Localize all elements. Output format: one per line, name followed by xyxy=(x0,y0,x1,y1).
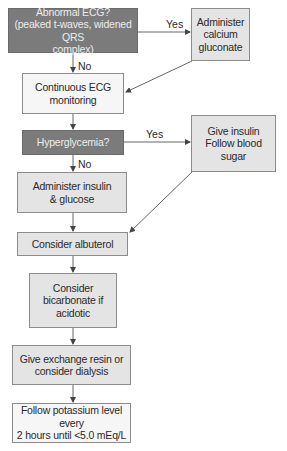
node-consider-bicarbonate: Consider bicarbonate if acidotic xyxy=(29,273,117,328)
node-albuterol-text: Consider albuterol xyxy=(32,238,114,251)
node-continuous-ecg-text: Continuous ECG monitoring xyxy=(35,81,111,106)
node-follow-potassium-text: Follow potassium level every 2 hours unt… xyxy=(16,404,127,442)
node-abnormal-ecg-text: Abnormal ECG? (peaked t-waves, widened Q… xyxy=(12,6,134,56)
node-administer-calcium-gluconate: Administer calcium gluconate xyxy=(191,8,250,61)
edge-label-ecg-yes: Yes xyxy=(166,18,183,30)
edge-label-hyperglycemia-yes: Yes xyxy=(146,128,163,140)
node-hyperglycemia-text: Hyperglycemia? xyxy=(37,136,109,149)
node-give-insulin-follow-blood-sugar: Give insulin Follow blood sugar xyxy=(191,115,276,172)
flowchart: Abnormal ECG? (peaked t-waves, widened Q… xyxy=(0,0,287,451)
node-follow-potassium: Follow potassium level every 2 hours unt… xyxy=(12,403,131,443)
node-hyperglycemia: Hyperglycemia? xyxy=(22,130,124,155)
edge-label-hyperglycemia-no: No xyxy=(78,158,91,170)
node-insulin-glucose-text: Administer insulin & glucose xyxy=(33,180,112,205)
node-continuous-ecg-monitoring: Continuous ECG monitoring xyxy=(22,73,124,114)
node-administer-insulin-glucose: Administer insulin & glucose xyxy=(17,172,127,213)
node-exchange-resin-dialysis: Give exchange resin or consider dialysis xyxy=(12,345,131,385)
node-exchange-resin-text: Give exchange resin or consider dialysis xyxy=(20,353,124,378)
node-calcium-text: Administer calcium gluconate xyxy=(197,16,245,54)
node-consider-albuterol: Consider albuterol xyxy=(17,232,128,256)
node-give-insulin-text: Give insulin Follow blood sugar xyxy=(205,125,262,163)
node-abnormal-ecg: Abnormal ECG? (peaked t-waves, widened Q… xyxy=(8,8,138,53)
edge-label-ecg-no: No xyxy=(78,60,91,72)
node-bicarbonate-text: Consider bicarbonate if acidotic xyxy=(43,282,103,320)
